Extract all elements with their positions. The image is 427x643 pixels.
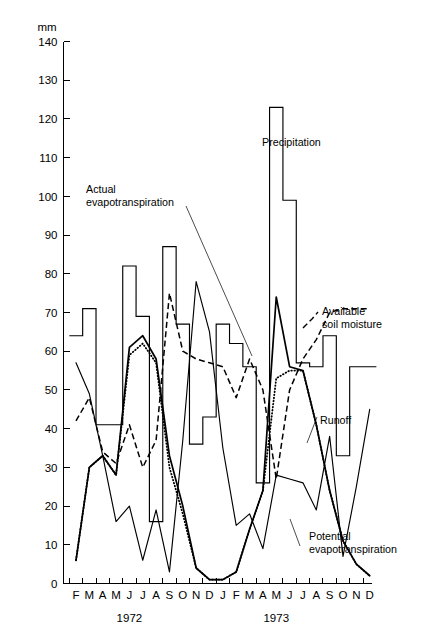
y-axis-tick-label: 40	[45, 423, 58, 435]
x-axis-tick-label: J	[140, 589, 146, 601]
y-axis-tick-label: 30	[45, 462, 58, 474]
x-axis-tick-labels: FMAMJJASONDJFMAMJJASOND	[72, 589, 373, 601]
water-balance-chart: mm 0102030405060708090100110120130140 FM…	[0, 0, 427, 643]
x-axis-tick-label: O	[178, 589, 187, 601]
y-axis-unit-label: mm	[38, 21, 57, 33]
x-axis-tick-label: J	[127, 589, 133, 601]
x-axis-tick-label: S	[166, 589, 174, 601]
annotation-line: soil moisture	[322, 318, 382, 330]
y-axis-ticks	[64, 42, 70, 584]
annotation-potential-evapotranspiration: Potentialevapotranspiration	[309, 530, 397, 555]
x-axis-tick-label: M	[245, 589, 255, 601]
annotation-line: evapotranspiration	[86, 196, 174, 208]
y-axis-tick-label: 120	[38, 113, 57, 125]
x-axis-tick-label: O	[339, 589, 348, 601]
y-axis-tick-label: 80	[45, 268, 58, 280]
y-axis-tick-label: 130	[38, 74, 57, 86]
y-axis-tick-label: 0	[51, 578, 57, 590]
annotation-line: Precipitation	[262, 136, 321, 148]
annotation-available-soil-moisture: Availablesoil moisture	[322, 305, 382, 330]
leader-line-actual-evapotranspiration	[186, 206, 252, 356]
y-axis-tick-label: 140	[38, 36, 57, 48]
x-axis-tick-label: F	[233, 589, 240, 601]
x-axis-tick-label: J	[300, 589, 306, 601]
annotation-leader-lines	[186, 206, 318, 546]
x-axis-tick-label: F	[72, 589, 79, 601]
x-axis-tick-label: A	[152, 589, 160, 601]
leader-line-runoff	[307, 417, 317, 443]
x-axis-tick-label: S	[326, 589, 334, 601]
x-axis-tick-label: D	[366, 589, 374, 601]
x-axis-tick-label: M	[111, 589, 121, 601]
y-axis-tick-label: 90	[45, 229, 58, 241]
x-axis-tick-label: J	[287, 589, 293, 601]
leader-line-available-soil-moisture	[303, 312, 318, 328]
x-axis-tick-label: N	[352, 589, 360, 601]
x-axis-tick-label: J	[220, 589, 226, 601]
data-series	[69, 107, 376, 579]
annotation-line: Actual	[86, 183, 116, 195]
y-axis-tick-label: 60	[45, 345, 58, 357]
x-axis-ticks	[69, 578, 363, 584]
annotation-line: Potential	[309, 530, 351, 542]
y-axis-tick-labels: 0102030405060708090100110120130140	[38, 36, 57, 590]
annotation-precipitation: Precipitation	[262, 136, 321, 148]
chart-canvas: mm 0102030405060708090100110120130140 FM…	[0, 0, 427, 643]
x-axis-tick-label: A	[312, 589, 320, 601]
year-group-labels: 19721973	[117, 612, 289, 624]
x-axis-tick-label: M	[85, 589, 95, 601]
year-label: 1972	[117, 612, 143, 624]
y-axis-tick-label: 100	[38, 191, 57, 203]
x-axis-tick-label: D	[205, 589, 213, 601]
y-axis-tick-label: 110	[39, 152, 57, 164]
x-axis-tick-label: A	[99, 589, 107, 601]
y-axis-tick-label: 50	[45, 384, 58, 396]
annotation-line: evapotranspiration	[309, 543, 397, 555]
annotation-runoff: Runoff	[320, 414, 351, 426]
year-label: 1973	[263, 612, 289, 624]
annotation-line: Available	[322, 305, 365, 317]
x-axis-tick-label: N	[192, 589, 200, 601]
y-axis-tick-label: 10	[45, 539, 58, 551]
y-axis-tick-label: 20	[45, 500, 58, 512]
leader-line-potential-evapotranspiration	[290, 519, 300, 546]
x-axis-tick-label: M	[271, 589, 281, 601]
y-axis-tick-label: 70	[45, 307, 58, 319]
annotation-line: Runoff	[320, 414, 351, 426]
annotation-actual-evapotranspiration: Actualevapotranspiration	[86, 183, 174, 208]
x-axis-tick-label: A	[259, 589, 267, 601]
